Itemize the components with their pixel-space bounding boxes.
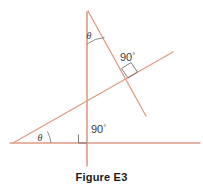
theta-arc-bottom xyxy=(48,132,52,144)
theta-label-bottom: θ xyxy=(38,132,43,143)
geometry-diagram: θ θ 90° 90° xyxy=(0,0,203,193)
figure-container: θ θ 90° 90° Figure E3 xyxy=(0,0,203,193)
right-angle-label-upper: 90° xyxy=(120,51,135,63)
right-angle-lower-degree: ° xyxy=(103,124,106,131)
figure-caption: Figure E3 xyxy=(0,170,203,184)
theta-label-top: θ xyxy=(87,30,92,41)
right-angle-upper-degree: ° xyxy=(132,52,135,59)
right-angle-marker-lower xyxy=(79,135,88,144)
transversal-line xyxy=(88,11,146,116)
right-angle-lower-value: 90 xyxy=(91,123,103,135)
right-angle-upper-value: 90 xyxy=(120,51,132,63)
right-angle-label-lower: 90° xyxy=(91,123,106,135)
